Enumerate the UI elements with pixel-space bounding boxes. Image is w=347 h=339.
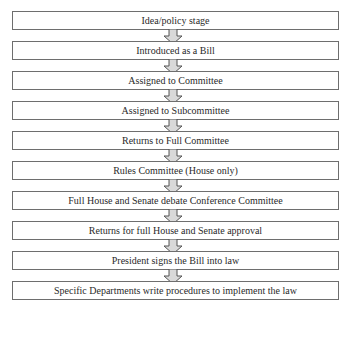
step-full-house-senate-debate: Full House and Senate debate Conference … bbox=[12, 191, 339, 210]
step-label: Assigned to Committee bbox=[128, 75, 222, 86]
step-idea-policy-stage: Idea/policy stage bbox=[12, 11, 339, 30]
step-introduced-as-bill: Introduced as a Bill bbox=[12, 41, 339, 60]
step-departments-write-procedures: Specific Departments write procedures to… bbox=[12, 281, 339, 300]
step-label: Idea/policy stage bbox=[141, 15, 209, 26]
step-assigned-to-subcommittee: Assigned to Subcommittee bbox=[12, 101, 339, 120]
step-label: President signs the Bill into law bbox=[112, 255, 240, 266]
step-president-signs: President signs the Bill into law bbox=[12, 251, 339, 270]
step-label: Assigned to Subcommittee bbox=[122, 105, 230, 116]
step-label: Full House and Senate debate Conference … bbox=[68, 195, 282, 206]
step-returns-for-approval: Returns for full House and Senate approv… bbox=[12, 221, 339, 240]
step-label: Rules Committee (House only) bbox=[113, 165, 238, 176]
step-label: Returns to Full Committee bbox=[122, 135, 229, 146]
step-label: Introduced as a Bill bbox=[136, 45, 215, 56]
legislative-process-flowchart: Idea/policy stage Introduced as a Bill A… bbox=[0, 0, 347, 339]
step-rules-committee: Rules Committee (House only) bbox=[12, 161, 339, 180]
step-label: Specific Departments write procedures to… bbox=[54, 285, 297, 296]
step-assigned-to-committee: Assigned to Committee bbox=[12, 71, 339, 90]
step-label: Returns for full House and Senate approv… bbox=[89, 225, 262, 236]
step-returns-to-full-committee: Returns to Full Committee bbox=[12, 131, 339, 150]
